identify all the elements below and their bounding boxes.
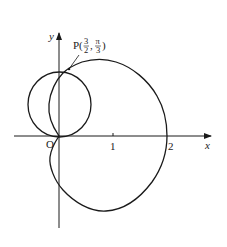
polar-diagram: y x O 1 2 P( 3 2 , π 3 ) (0, 0, 227, 247)
origin-label: O (46, 138, 54, 150)
x-tick-label-2: 2 (168, 140, 174, 152)
x-tick-label-1: 1 (110, 140, 116, 152)
x-axis-label: x (204, 139, 210, 151)
point-p-suffix: ) (102, 39, 106, 52)
point-p-sep: , (90, 39, 93, 51)
y-axis-label: y (48, 30, 54, 42)
point-pointer (69, 55, 79, 69)
point-p-label: P( 3 2 , π 3 ) (73, 36, 106, 55)
point-p-theta-den: 3 (96, 45, 100, 55)
cardioid-curve (49, 59, 167, 211)
point-p-r-den: 2 (84, 45, 88, 55)
point-p-marker (68, 68, 71, 71)
point-p-prefix: P( (73, 39, 83, 52)
